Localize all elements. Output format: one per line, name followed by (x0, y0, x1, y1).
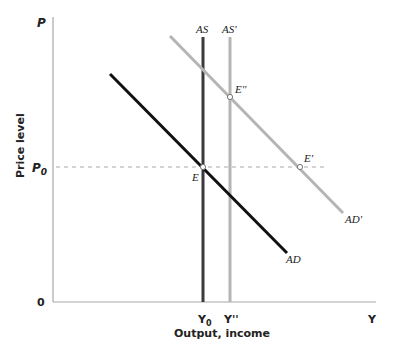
y-axis-title: Price level (14, 113, 27, 178)
ad-label: AD (285, 253, 301, 265)
point-e-label: E (191, 171, 199, 183)
ad-curve (110, 74, 287, 253)
as-label: AS (195, 23, 209, 35)
p0-label: P0 (32, 161, 47, 177)
y-axis-top-label: P (37, 16, 46, 30)
point-e-double-prime-marker (227, 94, 232, 99)
as-prime-label: AS' (221, 23, 237, 35)
as-ad-diagram: AS AS' AD AD' E E'' E' P P0 0 Price leve… (0, 0, 393, 352)
point-e-prime-label: E' (303, 152, 314, 164)
ad-prime-label: AD' (344, 213, 363, 225)
ad-prime-curve (170, 36, 343, 213)
point-e-double-prime-label: E'' (234, 83, 247, 95)
y0-label: Y0 (197, 313, 212, 328)
origin-label: 0 (37, 296, 45, 309)
point-e-prime-marker (297, 164, 302, 169)
p0-subscript: 0 (41, 167, 47, 177)
y-double-prime-label: Y'' (223, 313, 239, 326)
point-e-marker (200, 164, 205, 169)
x-axis-title: Output, income (174, 327, 270, 340)
x-axis-end-label: Y (367, 313, 377, 326)
